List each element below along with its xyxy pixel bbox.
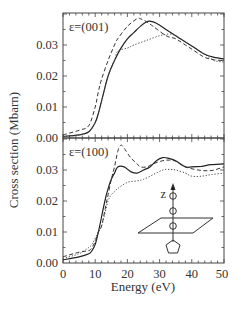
top-panel-label: ε=(001) bbox=[69, 20, 108, 34]
y-tick-label: 0.01 bbox=[36, 225, 58, 239]
y-tick-label: 0.01 bbox=[36, 100, 58, 114]
top-y-tick-labels: 0.00 0.01 0.02 0.03 bbox=[36, 38, 58, 145]
x-tick-label: 30 bbox=[153, 267, 166, 281]
bottom-panel-series bbox=[63, 145, 224, 260]
x-tick-label: 50 bbox=[216, 267, 229, 281]
x-tick-label: 10 bbox=[89, 267, 102, 281]
y-tick-label: 0.02 bbox=[36, 194, 58, 208]
z-axis-arrow-icon bbox=[171, 183, 176, 190]
top-panel-series bbox=[63, 18, 224, 136]
x-tick-label: 40 bbox=[186, 267, 199, 281]
top-dotted-line bbox=[63, 34, 224, 136]
top-solid-line bbox=[63, 21, 224, 136]
y-tick-label: 0.00 bbox=[36, 131, 58, 145]
y-tick-label: 0.03 bbox=[36, 163, 58, 177]
bottom-dotted-line bbox=[63, 169, 224, 258]
bottom-panel-label: ε=(100) bbox=[69, 145, 108, 159]
y-tick-label: 0.02 bbox=[36, 69, 58, 83]
surface-plane bbox=[138, 218, 213, 233]
y-tick-label: 0.03 bbox=[36, 38, 58, 52]
x-axis-label: Energy (eV) bbox=[111, 279, 175, 294]
y-axis-label: Cross section (Mbarn) bbox=[6, 92, 21, 208]
z-axis-label: z bbox=[160, 187, 166, 201]
y-tick-label: 0.00 bbox=[36, 256, 58, 270]
bottom-dashed-line bbox=[63, 145, 224, 257]
x-tick-label: 20 bbox=[121, 267, 134, 281]
bottom-solid-line bbox=[63, 157, 224, 259]
bottom-y-tick-labels: 0.00 0.01 0.02 0.03 bbox=[36, 163, 58, 270]
molecule-inset-diagram: z bbox=[138, 183, 213, 253]
chart: Cross section (Mbarn) Energy (eV) 0.00 0… bbox=[0, 0, 243, 309]
x-tick-label: 0 bbox=[60, 267, 66, 281]
top-dashed-line bbox=[63, 18, 224, 135]
